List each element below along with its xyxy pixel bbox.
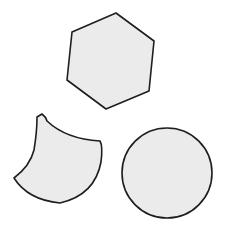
circle-shape xyxy=(122,128,212,218)
shapes-canvas xyxy=(0,0,227,238)
shapes-svg xyxy=(0,0,227,238)
curved-crescent-shape xyxy=(14,114,102,203)
hexagon-shape xyxy=(67,13,154,109)
